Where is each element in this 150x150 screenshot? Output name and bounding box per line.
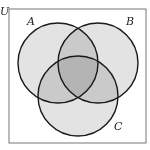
venn-diagram: U A B C [0,0,150,150]
set-c-label: C [114,120,123,133]
universe-label: U [0,5,10,18]
set-a-label: A [26,15,35,28]
set-b-label: B [125,15,134,28]
